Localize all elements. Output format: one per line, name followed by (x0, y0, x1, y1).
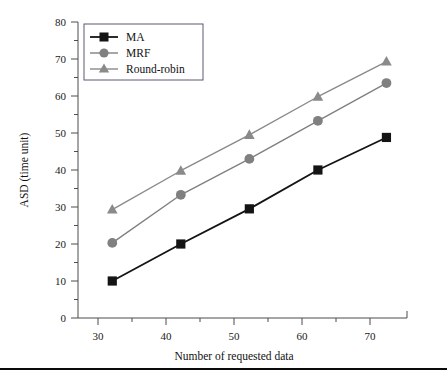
x-tick-label-30: 30 (93, 330, 105, 342)
data-point-mrf-30 (107, 238, 117, 248)
data-point-ma-70 (382, 133, 391, 142)
x-tick-label-50: 50 (229, 330, 241, 342)
data-point-ma-60 (313, 165, 322, 174)
y-tick-label-30: 30 (55, 201, 67, 213)
legend-label-round-robin: Round-robin (126, 63, 185, 75)
data-point-ma-30 (108, 276, 117, 285)
y-tick-label-40: 40 (55, 164, 67, 176)
data-point-mrf-70 (382, 78, 392, 88)
x-tick-label-60: 60 (297, 330, 309, 342)
y-axis-title: ASD (time unit) (18, 132, 31, 207)
y-tick-label-60: 60 (55, 90, 67, 102)
chart-background (0, 0, 447, 376)
x-axis-title: Number of requested data (174, 350, 293, 363)
y-tick-label-10: 10 (55, 275, 67, 287)
y-tick-labels: 0 10 20 30 40 50 60 70 80 (55, 16, 67, 324)
legend-marker-square-icon (100, 33, 109, 42)
chart-figure: 0 10 20 30 40 50 60 70 80 30 40 50 60 (0, 0, 447, 376)
data-point-ma-50 (245, 204, 254, 213)
x-tick-label-70: 70 (365, 330, 377, 342)
legend-marker-circle-icon (99, 48, 108, 57)
y-tick-label-0: 0 (61, 312, 67, 324)
legend-label-mrf: MRF (126, 47, 150, 59)
data-point-ma-40 (176, 239, 185, 248)
x-tick-label-40: 40 (161, 330, 173, 342)
y-tick-label-70: 70 (55, 53, 67, 65)
data-point-mrf-40 (176, 190, 186, 200)
line-chart-svg: 0 10 20 30 40 50 60 70 80 30 40 50 60 (0, 0, 447, 376)
y-tick-label-50: 50 (55, 127, 67, 139)
legend-label-ma: MA (126, 31, 145, 43)
data-point-mrf-50 (244, 154, 254, 164)
data-point-mrf-60 (313, 116, 323, 126)
chart-legend: MA MRF Round-robin (84, 24, 203, 80)
y-tick-label-20: 20 (55, 238, 67, 250)
y-tick-label-80: 80 (55, 16, 67, 28)
